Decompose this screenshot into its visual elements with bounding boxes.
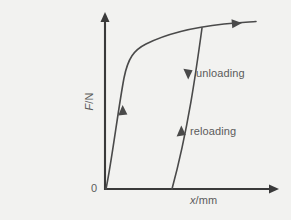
force-extension-diagram: unloading reloading x/mm F/N 0 [0,0,291,220]
y-axis-quantity: F [83,104,95,111]
unloading-arrow-icon [183,69,192,80]
unloading-label: unloading [196,68,245,79]
loading-curve [106,22,256,190]
reloading-label: reloading [190,126,236,137]
y-axis-label: F/N [84,85,95,119]
loading-curve-right-arrow-icon [232,19,243,28]
y-axis-unit: /N [83,92,95,103]
origin-label: 0 [91,183,97,194]
x-axis-label: x/mm [190,195,217,206]
x-axis-unit: /mm [196,194,218,206]
y-axis-arrow-icon [101,12,110,22]
reloading-arrow-icon [177,126,186,137]
x-axis-arrow-icon [269,185,279,194]
unload-reload-line [172,28,202,189]
plot-svg [0,0,291,220]
